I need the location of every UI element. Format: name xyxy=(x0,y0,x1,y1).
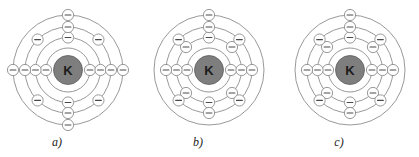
electron-shell1-2 xyxy=(322,64,333,75)
electron-circle xyxy=(377,64,388,75)
electron-shell3-3 xyxy=(62,21,73,32)
electron-shell2-2 xyxy=(367,41,378,52)
electron-circle xyxy=(314,95,325,106)
electron-circle xyxy=(225,64,236,75)
electron-circle xyxy=(344,107,355,118)
electron-circle xyxy=(105,64,116,75)
electron-shell2-1 xyxy=(236,64,247,75)
electron-circle xyxy=(314,34,325,45)
electron-shell3-7 xyxy=(203,107,214,118)
electron-shell2-2 xyxy=(62,32,73,43)
electron-shell3-4 xyxy=(314,34,325,45)
atom-svg-a: Ka) xyxy=(0,0,419,157)
electron-shell2-6 xyxy=(180,87,191,98)
electron-shell1-1 xyxy=(84,64,95,75)
electron-shell1-2 xyxy=(181,64,192,75)
electron-circle xyxy=(375,95,386,106)
electron-circle xyxy=(226,87,237,98)
electron-circle xyxy=(40,64,51,75)
electron-shell-ring-1 xyxy=(46,48,90,92)
electron-circle xyxy=(62,32,73,43)
nucleus-symbol-label: K xyxy=(63,63,73,78)
electron-shell2-7 xyxy=(203,97,214,108)
atom-diagram-figure: Ka)Kb)Kc) xyxy=(0,0,419,157)
electron-circle xyxy=(203,21,214,32)
electron-circle xyxy=(32,95,43,106)
nucleus-circle xyxy=(195,56,224,85)
electron-shell2-7 xyxy=(344,97,355,108)
electron-shell3-3 xyxy=(344,21,355,32)
nucleus-symbol-label: K xyxy=(204,63,214,78)
electron-shell1-1 xyxy=(225,64,236,75)
electron-circle xyxy=(32,34,43,45)
electron-circle xyxy=(7,64,18,75)
electron-circle xyxy=(93,95,104,106)
electron-shell4-2 xyxy=(62,9,73,20)
electron-shell3-6 xyxy=(173,95,184,106)
electron-shell3-6 xyxy=(314,95,325,106)
electron-circle xyxy=(173,95,184,106)
electron-circle xyxy=(203,107,214,118)
atom-svg-c: Kc) xyxy=(0,0,419,157)
atom-svg-b: Kb) xyxy=(0,0,419,157)
electron-shell4-1 xyxy=(344,9,355,20)
electron-shell3-2 xyxy=(93,34,104,45)
electron-shell2-2 xyxy=(226,41,237,52)
electron-circle xyxy=(62,97,73,108)
electron-shell3-5 xyxy=(301,64,312,75)
electron-shell-ring-3 xyxy=(25,27,111,113)
electron-shell4-3 xyxy=(7,64,18,75)
electron-shell3-8 xyxy=(234,95,245,106)
electron-shell3-7 xyxy=(344,107,355,118)
electron-circle xyxy=(344,21,355,32)
electron-circle xyxy=(203,32,214,43)
electron-circle xyxy=(160,64,171,75)
electron-circle xyxy=(321,41,332,52)
electron-shell4-4 xyxy=(62,119,73,130)
electron-shell3-1 xyxy=(246,64,257,75)
electron-circle xyxy=(246,64,257,75)
electron-circle xyxy=(117,64,128,75)
electron-shell-ring-2 xyxy=(318,38,383,103)
electron-shell2-4 xyxy=(180,41,191,52)
electron-shell3-5 xyxy=(160,64,171,75)
electron-shell-ring-1 xyxy=(187,48,231,92)
electron-shell3-4 xyxy=(32,34,43,45)
electron-circle xyxy=(367,41,378,52)
electron-shell2-5 xyxy=(171,64,182,75)
electron-shell2-3 xyxy=(344,32,355,43)
electron-circle xyxy=(312,64,323,75)
electron-circle xyxy=(62,107,73,118)
electron-circle xyxy=(367,87,378,98)
electron-shell2-1 xyxy=(377,64,388,75)
electron-shell3-3 xyxy=(203,21,214,32)
electron-circle xyxy=(322,64,333,75)
panel-label-a: a) xyxy=(52,135,62,149)
electron-shell-ring-3 xyxy=(307,27,393,113)
electron-shell-ring-4 xyxy=(13,15,123,125)
electron-shell1-1 xyxy=(366,64,377,75)
panel-label-c: c) xyxy=(334,135,343,149)
electron-shell4-1 xyxy=(203,9,214,20)
electron-shell-ring-4 xyxy=(295,15,405,125)
electron-shell2-4 xyxy=(62,97,73,108)
electron-circle xyxy=(226,41,237,52)
electron-circle xyxy=(321,87,332,98)
electron-circle xyxy=(344,32,355,43)
electron-circle xyxy=(84,64,95,75)
electron-shell3-6 xyxy=(32,95,43,106)
nucleus-symbol-label: K xyxy=(345,63,355,78)
electron-circle xyxy=(62,9,73,20)
electron-shell3-5 xyxy=(19,64,30,75)
electron-circle xyxy=(62,119,73,130)
electron-circle xyxy=(19,64,30,75)
electron-circle xyxy=(234,34,245,45)
electron-shell2-6 xyxy=(321,87,332,98)
electron-shell3-2 xyxy=(375,34,386,45)
electron-shell3-7 xyxy=(62,107,73,118)
electron-shell2-1 xyxy=(95,64,106,75)
electron-circle xyxy=(180,87,191,98)
electron-shell1-2 xyxy=(40,64,51,75)
electron-circle xyxy=(301,64,312,75)
electron-shell3-8 xyxy=(375,95,386,106)
